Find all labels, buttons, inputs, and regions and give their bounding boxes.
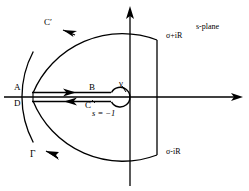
small-circle-gamma-label: γ	[119, 79, 123, 88]
lower-arc-direction-arrow	[46, 151, 59, 160]
point-a-label: A	[14, 83, 21, 92]
upper-arc-direction-arrow	[63, 30, 77, 37]
branch-point-value-label: s = −1	[92, 109, 115, 118]
s-plane-label: s-plane	[196, 23, 219, 31]
point-d-label: D	[14, 99, 21, 108]
s-plane-contour-figure: s-plane σ+iR σ-iR C′ Γ A D B C γ s = −1	[0, 0, 249, 191]
point-b-label: B	[89, 83, 95, 92]
outer-arc-lower-label: Γ	[30, 150, 36, 160]
real-axis	[4, 93, 243, 101]
point-c-label: C	[85, 101, 91, 110]
sigma-minus-iR-label: σ-iR	[166, 148, 181, 156]
branch-cut-upper-edge	[32, 89, 111, 97]
branch-cut-lower-edge	[32, 98, 111, 106]
sigma-plus-iR-label: σ+iR	[166, 32, 182, 40]
outer-arc-upper-label: C′	[44, 18, 52, 27]
